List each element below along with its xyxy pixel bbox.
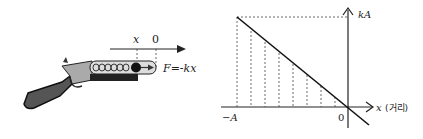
force-equation-label: F=-kx: [162, 62, 197, 75]
x-position-label: x: [133, 33, 140, 46]
force-displacement-graph: kA x (거리) 0 −A: [211, 0, 423, 139]
x-axis-korean-label: (거리): [385, 103, 408, 113]
spring-gun-illustration: x 0 F=-kx: [0, 0, 212, 139]
x-axis-var-label: x: [376, 102, 382, 113]
ka-label: kA: [358, 9, 371, 20]
neg-a-label: −A: [222, 112, 238, 123]
zero-position-label: 0: [152, 33, 159, 46]
spring-gun-figure: x 0 F=-kx: [0, 0, 212, 139]
force-line: [237, 17, 369, 125]
force-graph-svg: kA x (거리) 0 −A: [211, 0, 423, 139]
origin-label: 0: [338, 112, 344, 123]
